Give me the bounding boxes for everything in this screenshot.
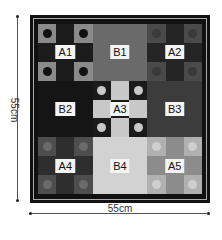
patch (147, 62, 165, 81)
patch (56, 175, 74, 194)
patch (166, 175, 184, 194)
flower-dot-icon (79, 67, 88, 76)
patch (74, 43, 92, 62)
block-a3: A3 (93, 81, 148, 138)
block-b1: B1 (93, 24, 148, 81)
patch (93, 118, 111, 137)
patch (74, 156, 92, 175)
flower-dot-icon (43, 142, 52, 151)
patch (38, 43, 56, 62)
flower-dot-icon (152, 29, 161, 38)
flower-dot-icon (43, 67, 52, 76)
block-label: A5 (165, 159, 184, 173)
flower-dot-icon (43, 180, 52, 189)
patch (166, 24, 184, 43)
patch (129, 81, 147, 100)
flower-dot-icon (79, 29, 88, 38)
flower-dot-icon (43, 29, 52, 38)
flower-dot-icon (152, 180, 161, 189)
patch (184, 137, 202, 156)
flower-dot-icon (97, 123, 106, 132)
patch (38, 156, 56, 175)
patch (93, 81, 111, 100)
flower-dot-icon (188, 142, 197, 151)
patch (147, 175, 165, 194)
block-label: A1 (56, 45, 75, 59)
patch (184, 156, 202, 175)
patch (56, 62, 74, 81)
patch (184, 62, 202, 81)
block-label: B1 (110, 45, 129, 59)
patch (147, 156, 165, 175)
height-label: 55cm (9, 98, 20, 122)
block-label: A4 (56, 159, 75, 173)
block-label: B3 (165, 102, 184, 116)
block-a4: A4 (38, 137, 93, 194)
quilt-grid: A1B1A2B2A3B3A4B4A5 (38, 24, 202, 194)
patch (74, 175, 92, 194)
patch (74, 62, 92, 81)
block-b3: B3 (147, 81, 202, 138)
flower-dot-icon (188, 29, 197, 38)
flower-dot-icon (97, 86, 106, 95)
patch (184, 43, 202, 62)
patch (56, 137, 74, 156)
patch (166, 137, 184, 156)
patch (184, 175, 202, 194)
flower-dot-icon (188, 67, 197, 76)
block-label: A3 (110, 102, 129, 116)
block-a1: A1 (38, 24, 93, 81)
width-label: 55cm (108, 203, 132, 214)
patch (93, 100, 111, 119)
patch (38, 24, 56, 43)
patch (184, 24, 202, 43)
patch (111, 118, 129, 137)
patch (129, 118, 147, 137)
patch (166, 62, 184, 81)
patch (147, 43, 165, 62)
flower-dot-icon (188, 180, 197, 189)
flower-dot-icon (152, 142, 161, 151)
block-b2: B2 (38, 81, 93, 138)
patch (74, 24, 92, 43)
patch (38, 137, 56, 156)
flower-dot-icon (79, 180, 88, 189)
block-label: B2 (56, 102, 75, 116)
flower-dot-icon (152, 67, 161, 76)
block-label: A2 (165, 45, 184, 59)
flower-dot-icon (134, 86, 143, 95)
block-a2: A2 (147, 24, 202, 81)
patch (111, 81, 129, 100)
patch (38, 62, 56, 81)
patch (147, 24, 165, 43)
block-label: B4 (110, 159, 129, 173)
patch (56, 24, 74, 43)
patch (74, 137, 92, 156)
block-b4: B4 (93, 137, 148, 194)
patch (147, 137, 165, 156)
flower-dot-icon (134, 123, 143, 132)
flower-dot-icon (79, 142, 88, 151)
patch (129, 100, 147, 119)
patch (38, 175, 56, 194)
block-a5: A5 (147, 137, 202, 194)
